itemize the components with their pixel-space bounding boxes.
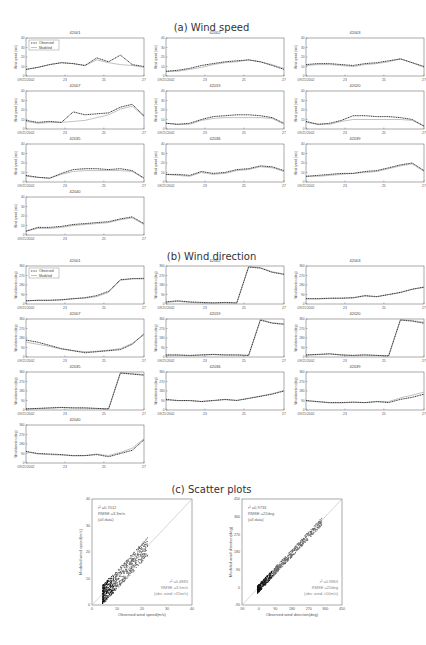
svg-text:30: 30 [21,46,25,50]
svg-text:Wind direction (deg): Wind direction (deg) [154,378,158,405]
scatter-speed-plot: 010203040010203040Observed wind speed(m/… [78,497,198,627]
svg-text:20: 20 [301,161,305,165]
svg-text:(all data): (all data) [98,517,114,522]
svg-text:RMSE =22deg: RMSE =22deg [312,585,338,590]
svg-text:Wind speed (m/s): Wind speed (m/s) [154,45,158,69]
svg-text:09/21/2002: 09/21/2002 [18,78,35,82]
svg-text:23: 23 [203,306,207,310]
svg-text:20: 20 [21,214,25,218]
panel-title: 42007 [14,83,136,88]
svg-text:450: 450 [339,607,345,611]
section-title-scatter-plots: (c) Scatter plots [0,484,423,495]
panel-42035: 42035090180270360Wind direction (deg)09/… [14,372,136,418]
svg-text:360: 360 [159,264,165,268]
svg-text:90: 90 [21,452,25,456]
panel-42040: 42040090180270360Wind direction (deg)09/… [14,425,136,471]
svg-text:27: 27 [142,237,146,241]
svg-text:90: 90 [273,607,277,611]
svg-text:Wind speed (m/s): Wind speed (m/s) [14,45,18,69]
svg-text:09/21/2002: 09/21/2002 [298,306,315,310]
svg-text:270: 270 [234,533,240,537]
svg-text:09/21/2002: 09/21/2002 [18,359,35,363]
svg-text:360: 360 [299,370,305,374]
svg-text:0: 0 [258,607,260,611]
svg-text:180: 180 [159,283,165,287]
svg-text:270: 270 [299,327,305,331]
svg-text:Observed: Observed [39,41,54,45]
svg-text:90: 90 [21,293,25,297]
svg-text:Wind direction (deg): Wind direction (deg) [154,325,158,352]
panel-42020: 42020010203040Wind speed (m/s)09/21/2002… [294,91,416,137]
svg-text:09/21/2002: 09/21/2002 [18,184,35,188]
svg-text:23: 23 [63,306,67,310]
svg-text:25: 25 [382,359,386,363]
svg-text:10: 10 [21,65,25,69]
panel-title: 42040 [14,189,136,194]
svg-text:27: 27 [422,184,426,188]
svg-text:23: 23 [343,306,347,310]
panel-42003: 42003010203040Wind speed (m/s)09/21/2002… [294,38,416,84]
svg-text:r² =0.9863: r² =0.9863 [320,579,339,584]
svg-text:Wind speed (m/s): Wind speed (m/s) [14,204,18,228]
svg-text:360: 360 [234,515,240,519]
svg-text:Wind direction (deg): Wind direction (deg) [14,431,18,458]
panel-42001: 42001090180270360Wind direction (deg)09/… [14,266,136,312]
svg-text:09/21/2002: 09/21/2002 [158,184,175,188]
svg-text:20: 20 [21,161,25,165]
svg-text:(all data): (all data) [248,517,264,522]
svg-text:360: 360 [159,317,165,321]
svg-text:(obs. wind >10m/s): (obs. wind >10m/s) [304,591,339,596]
svg-text:30: 30 [301,46,305,50]
svg-text:Wind speed (m/s): Wind speed (m/s) [154,151,158,175]
svg-text:180: 180 [234,550,240,554]
panel-title: 42035 [14,136,136,141]
svg-text:r² =0.4883: r² =0.4883 [170,579,189,584]
svg-text:40: 40 [86,497,90,501]
svg-text:23: 23 [343,131,347,135]
svg-text:25: 25 [102,237,106,241]
panel-42007: 42007010203040Wind speed (m/s)09/21/2002… [14,91,136,137]
svg-text:27: 27 [142,412,146,416]
svg-text:Modeled wind speed(m/s): Modeled wind speed(m/s) [78,528,83,574]
svg-text:25: 25 [382,78,386,82]
svg-text:0: 0 [238,586,240,590]
svg-text:40: 40 [301,36,305,40]
svg-text:25: 25 [382,412,386,416]
svg-text:27: 27 [142,131,146,135]
svg-text:25: 25 [102,184,106,188]
svg-text:Wind speed (m/s): Wind speed (m/s) [294,98,298,122]
svg-text:20: 20 [301,55,305,59]
svg-text:90: 90 [236,568,240,572]
panel-title: 42001 [14,30,136,35]
svg-text:360: 360 [19,264,25,268]
panel-42040: 42040010203040Wind speed (m/s)09/21/2002… [14,197,136,243]
panel-title: 42002 [154,30,276,35]
svg-text:30: 30 [301,152,305,156]
svg-text:25: 25 [102,359,106,363]
svg-text:25: 25 [102,131,106,135]
svg-text:Wind direction (deg): Wind direction (deg) [14,272,18,299]
svg-text:RMSE =22deg: RMSE =22deg [248,511,274,516]
svg-text:09/21/2002: 09/21/2002 [158,359,175,363]
svg-text:25: 25 [242,359,246,363]
svg-text:09/21/2002: 09/21/2002 [298,131,315,135]
panel-42001: 42001010203040Wind speed (m/s)09/21/2002… [14,38,136,84]
svg-text:Wind speed (m/s): Wind speed (m/s) [294,151,298,175]
svg-text:23: 23 [203,184,207,188]
svg-text:270: 270 [299,274,305,278]
svg-text:RMSE =3.3m/s: RMSE =3.3m/s [98,511,125,516]
svg-text:10: 10 [115,607,119,611]
svg-text:25: 25 [382,184,386,188]
panel-title: 42003 [294,30,416,35]
svg-text:40: 40 [21,36,25,40]
svg-text:180: 180 [19,389,25,393]
svg-text:10: 10 [21,171,25,175]
panel-title: 42002 [154,258,276,263]
svg-text:40: 40 [21,195,25,199]
svg-text:Modeled: Modeled [39,274,52,278]
svg-text:09/21/2002: 09/21/2002 [18,465,35,469]
svg-text:09/21/2002: 09/21/2002 [298,78,315,82]
svg-text:r² =0.9733: r² =0.9733 [248,505,267,510]
panel-42036: 42036010203040Wind speed (m/s)09/21/2002… [154,144,276,190]
svg-text:25: 25 [102,306,106,310]
